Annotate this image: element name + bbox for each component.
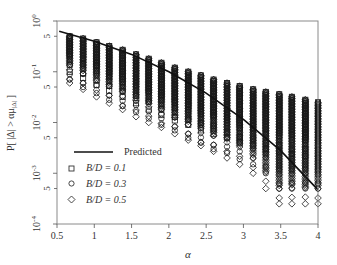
x-tick-label: 1 [92, 230, 97, 241]
svg-text:P[ |Δ| > αμ|Δ| ]: P[ |Δ| > αμ|Δ| ] [5, 95, 18, 151]
x-tick-label: 2 [166, 230, 171, 241]
svg-text:5: 5 [42, 34, 52, 39]
svg-text:5: 5 [42, 84, 52, 89]
svg-text:5: 5 [42, 135, 52, 140]
svg-text:5: 5 [42, 186, 52, 191]
legend-bd03-label: B/D = 0.3 [86, 178, 126, 189]
y-axis-label-subscript: |Δ| [10, 101, 18, 108]
x-tick-label: 3.5 [274, 230, 287, 241]
x-tick-label: 2.5 [200, 230, 213, 241]
legend-bd05-label: B/D = 0.5 [86, 194, 126, 205]
x-tick-label: 4 [316, 230, 321, 241]
y-minor-tick-label: 5 [42, 34, 52, 39]
y-axis-label-main: P[ |Δ| > αμ [5, 108, 16, 151]
y-minor-tick-label: 5 [42, 186, 52, 191]
x-axis-label: α [185, 248, 191, 260]
y-minor-tick-label: 5 [42, 84, 52, 89]
svg-text:10-4: 10-4 [30, 216, 42, 232]
y-axis-label: P[ |Δ| > αμ|Δ| ] [5, 95, 18, 151]
legend: Predicted B/D = 0.1 B/D = 0.3 B/D = 0.5 [60, 144, 180, 212]
svg-text:10-1: 10-1 [30, 63, 42, 79]
y-tick-label: 100 [30, 14, 42, 28]
x-tick-label: 3 [241, 230, 246, 241]
y-tick-label: 10-2 [30, 114, 42, 130]
legend-bd01-label: B/D = 0.1 [86, 162, 126, 173]
chart-canvas: 0.511.522.533.5410-410-310-210-11005555 … [0, 0, 337, 265]
y-tick-label: 10-3 [30, 165, 42, 181]
x-tick-label: 1.5 [125, 230, 138, 241]
x-tick-label: 0.5 [51, 230, 64, 241]
y-tick-label: 10-4 [30, 216, 42, 232]
y-minor-tick-label: 5 [42, 135, 52, 140]
y-tick-label: 10-1 [30, 63, 42, 79]
legend-predicted-label: Predicted [124, 146, 162, 157]
svg-text:10-2: 10-2 [30, 114, 42, 130]
y-axis-label-end: ] [5, 95, 16, 101]
svg-text:100: 100 [30, 14, 42, 28]
svg-text:10-3: 10-3 [30, 165, 42, 181]
